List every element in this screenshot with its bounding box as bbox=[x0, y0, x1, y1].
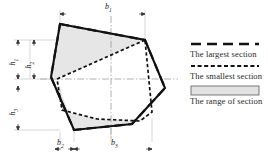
label-base: h bbox=[8, 61, 17, 65]
legend-label-largest: The largest section bbox=[190, 49, 257, 59]
label-base: h bbox=[24, 64, 33, 68]
figure-root: b1b2b3h1h2h3 The largest sectionThe smal… bbox=[0, 0, 268, 159]
arrow-h2-bottom bbox=[33, 73, 36, 79]
arrow-b3-left-head bbox=[74, 148, 77, 151]
dimension-label-b3: b3 bbox=[111, 139, 118, 149]
dimension-label-h3: h3 bbox=[9, 109, 19, 116]
arrow-b1-left-head bbox=[60, 13, 63, 16]
arrow-b3-left bbox=[74, 148, 80, 151]
arrow-b1-right-head bbox=[142, 13, 145, 16]
arrow-b3-right bbox=[146, 148, 152, 151]
arrow-h1-bottom-head bbox=[17, 76, 20, 79]
arrow-h3-bottom-head bbox=[17, 127, 20, 130]
dimension-label-h1: h1 bbox=[9, 59, 19, 66]
arrow-h1-bottom bbox=[17, 73, 20, 79]
arrow-h1-top-head bbox=[17, 40, 20, 43]
arrow-h3-top bbox=[17, 86, 20, 92]
arrow-h2-top bbox=[33, 40, 36, 46]
dimension-label-b2: b2 bbox=[57, 139, 64, 149]
legend-label-smallest: The smallest section bbox=[190, 71, 262, 81]
arrow-h3-top-head bbox=[17, 86, 20, 89]
arrow-b3-right-head bbox=[149, 148, 152, 151]
arrow-h1-top bbox=[17, 40, 20, 46]
legend-swatch-range bbox=[191, 86, 259, 95]
arrow-h2-top-head bbox=[33, 40, 36, 43]
label-subscript: 3 bbox=[13, 109, 19, 112]
dimension-label-b1: b1 bbox=[105, 3, 112, 13]
arrow-h2-bottom-head bbox=[33, 76, 36, 79]
range-area-0 bbox=[51, 24, 145, 79]
arrow-h3-bottom bbox=[17, 124, 20, 130]
dimension-label-h2: h2 bbox=[25, 62, 35, 69]
label-subscript: 3 bbox=[115, 143, 118, 149]
label-subscript: 2 bbox=[61, 143, 64, 149]
arrow-b1-right bbox=[139, 13, 145, 16]
label-base: h bbox=[8, 111, 17, 115]
legend-label-range: The range of section bbox=[190, 96, 262, 106]
label-subscript: 1 bbox=[109, 7, 112, 13]
arrow-b1-left bbox=[60, 13, 66, 16]
label-subscript: 2 bbox=[29, 62, 35, 65]
label-subscript: 1 bbox=[13, 59, 19, 62]
